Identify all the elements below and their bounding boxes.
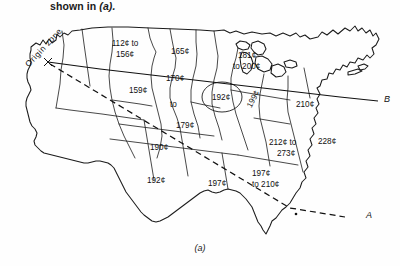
zone-boundary-12 xyxy=(56,108,144,120)
rate-value-2: 273¢ xyxy=(269,148,296,159)
rate-value-2: to 200¢ xyxy=(233,61,260,72)
rate-label-mountain-southwest: 159¢ xyxy=(129,86,147,96)
zone-boundary-7 xyxy=(212,31,222,140)
us-coastline-path xyxy=(26,26,379,234)
zone-boundary-15 xyxy=(119,124,214,136)
rate-label-gulf-coast: 197¢ to 210¢ xyxy=(252,168,279,190)
rate-label-deep-south: 212¢ to 273¢ xyxy=(269,137,296,159)
us-map-svg xyxy=(0,0,400,266)
rate-label-appalachian-east: 210¢ xyxy=(296,100,314,110)
endpoint-dot xyxy=(295,213,298,216)
rate-label-upper-midwest: 181¢ to 200¢ xyxy=(233,50,260,72)
rate-label-southwest-desert: 192¢ xyxy=(147,176,165,186)
zone-boundary-20 xyxy=(254,118,290,124)
rate-label-midwest-oval: 192¢ xyxy=(212,93,230,103)
zone-boundary-13 xyxy=(112,100,152,106)
dashed-line-to-A xyxy=(50,64,345,217)
rate-value-2: 156¢ xyxy=(102,49,148,60)
rate-label-north-central-plains: 165¢ xyxy=(171,47,189,57)
rate-label-central-plains-lower: 179¢ xyxy=(176,121,194,131)
us-outline-group xyxy=(26,26,379,234)
cape-cod-path xyxy=(358,64,368,70)
rate-value: 181¢ xyxy=(233,50,260,61)
rate-label-central-plains-upper: 170¢ xyxy=(166,74,184,84)
line-label-A: A xyxy=(366,210,372,220)
line-label-B: B xyxy=(384,94,390,104)
rate-label-central-plains-connector: to xyxy=(170,100,177,110)
rate-label-pacific-northwest-to-north-central: 112¢ to 156¢ xyxy=(102,38,148,60)
figure-container: shown in (a). xyxy=(0,0,400,266)
rate-value: 197¢ xyxy=(252,168,279,179)
rate-value: 112¢ to xyxy=(102,38,148,49)
zone-boundary-2 xyxy=(82,29,90,86)
rate-value: 212¢ to xyxy=(269,137,296,148)
zone-boundary-17 xyxy=(180,128,188,176)
rate-label-southwest-mountain: 190¢ xyxy=(150,143,168,153)
rate-label-southeast-atlantic: 228¢ xyxy=(318,137,336,147)
lake-ontario-path xyxy=(284,60,297,68)
figure-caption-bottom: (a) xyxy=(0,243,400,253)
zone-boundary-4 xyxy=(148,28,162,158)
long-island-path xyxy=(348,69,362,75)
rate-value-2: to 210¢ xyxy=(252,179,279,190)
rate-label-south-central: 197¢ xyxy=(208,179,226,189)
